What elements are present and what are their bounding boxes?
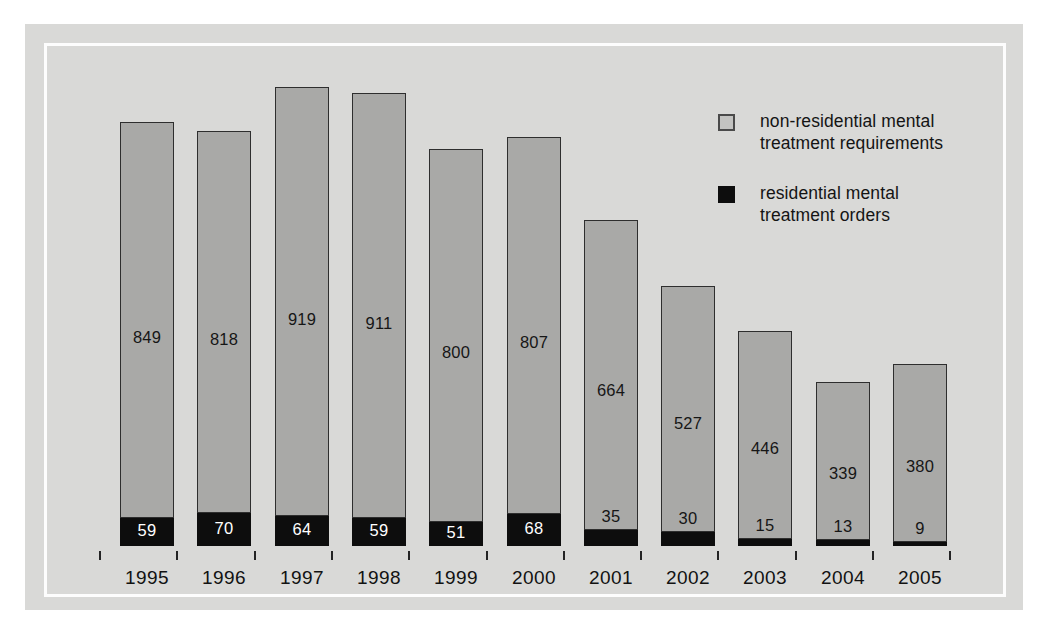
x-axis-tick [331,551,333,560]
bar-value-label-non-residential: 818 [197,330,251,349]
bar-group[interactable]: 3809 [893,364,947,546]
x-axis-label-2001: 2001 [570,567,652,589]
bar-group[interactable]: 33913 [816,382,870,546]
bar-segment-residential[interactable] [893,542,947,546]
bar-segment-non-residential[interactable] [661,286,715,532]
x-axis-tick [254,551,256,560]
bar-group[interactable]: 66435 [584,220,638,546]
bar-value-label-non-residential: 807 [507,333,561,352]
plot-area: 8495919958187019969196419979115919988005… [0,0,1048,634]
bar-value-label-non-residential: 446 [738,439,792,458]
x-axis-tick [717,551,719,560]
x-axis-tick [408,551,410,560]
bar-value-label-residential: 51 [429,523,483,542]
bar-segment-residential[interactable] [738,539,792,546]
x-axis-tick [99,551,101,560]
x-axis-label-1997: 1997 [261,567,343,589]
legend-label-line1: non-residential mental [760,111,934,131]
bar-group[interactable]: 80768 [507,137,561,546]
bar-value-label-residential: 13 [816,517,870,536]
bar-value-label-non-residential: 919 [275,310,329,329]
bar-segment-non-residential[interactable] [275,87,329,516]
bar-value-label-residential: 30 [661,509,715,528]
chart-legend: non-residential mental treatment require… [718,110,988,254]
bar-group[interactable]: 81870 [197,131,251,546]
bar-value-label-residential: 68 [507,519,561,538]
bar-value-label-non-residential: 664 [584,381,638,400]
x-axis-label-2000: 2000 [493,567,575,589]
x-axis-label-1998: 1998 [338,567,420,589]
x-axis-tick [949,551,951,560]
bar-value-label-non-residential: 339 [816,464,870,483]
bar-value-label-non-residential: 380 [893,457,947,476]
bar-segment-non-residential[interactable] [507,137,561,514]
legend-item-residential[interactable]: residential mental treatment orders [718,182,988,228]
x-axis-label-2004: 2004 [802,567,884,589]
legend-swatch-black-square [718,186,735,203]
bar-value-label-residential: 70 [197,519,251,538]
bar-segment-non-residential[interactable] [197,131,251,513]
legend-swatch-light-gray-square [718,114,735,131]
bar-segment-non-residential[interactable] [893,364,947,541]
bar-value-label-residential: 35 [584,507,638,526]
x-axis-tick [640,551,642,560]
bar-value-label-residential: 15 [738,516,792,535]
x-axis-label-1999: 1999 [415,567,497,589]
bar-group[interactable]: 44615 [738,331,792,546]
bar-segment-residential[interactable] [661,532,715,546]
legend-label-line2: treatment orders [760,205,890,225]
bar-value-label-residential: 59 [352,521,406,540]
x-axis-tick [563,551,565,560]
bar-value-label-residential: 64 [275,520,329,539]
legend-item-non-residential[interactable]: non-residential mental treatment require… [718,110,988,156]
bar-group[interactable]: 91159 [352,93,406,546]
bar-segment-residential[interactable] [816,540,870,546]
legend-label-non-residential: non-residential mental treatment require… [760,110,990,154]
bar-value-label-non-residential: 911 [352,314,406,333]
bar-value-label-non-residential: 800 [429,343,483,362]
x-axis-label-1996: 1996 [183,567,265,589]
bar-segment-non-residential[interactable] [352,93,406,518]
bar-value-label-residential: 59 [120,521,174,540]
bar-segment-non-residential[interactable] [584,220,638,530]
x-axis-label-1995: 1995 [106,567,188,589]
bar-group[interactable]: 84959 [120,122,174,546]
bar-value-label-residential: 9 [893,519,947,538]
bar-segment-non-residential[interactable] [429,149,483,523]
x-axis-tick [795,551,797,560]
x-axis-tick [486,551,488,560]
legend-label-line1: residential mental [760,183,899,203]
x-axis-label-2002: 2002 [647,567,729,589]
legend-label-line2: treatment requirements [760,133,943,153]
x-axis-label-2005: 2005 [879,567,961,589]
bar-group[interactable]: 52730 [661,286,715,546]
bar-segment-non-residential[interactable] [738,331,792,539]
x-axis-tick [176,551,178,560]
bar-segment-residential[interactable] [584,530,638,546]
bar-group[interactable]: 80051 [429,149,483,546]
chart-figure: 8495919958187019969196419979115919988005… [0,0,1048,634]
bar-segment-non-residential[interactable] [120,122,174,518]
x-axis-label-2003: 2003 [724,567,806,589]
bar-group[interactable]: 91964 [275,87,329,546]
bar-value-label-non-residential: 849 [120,328,174,347]
bar-value-label-non-residential: 527 [661,414,715,433]
x-axis-tick [872,551,874,560]
legend-label-residential: residential mental treatment orders [760,182,990,226]
